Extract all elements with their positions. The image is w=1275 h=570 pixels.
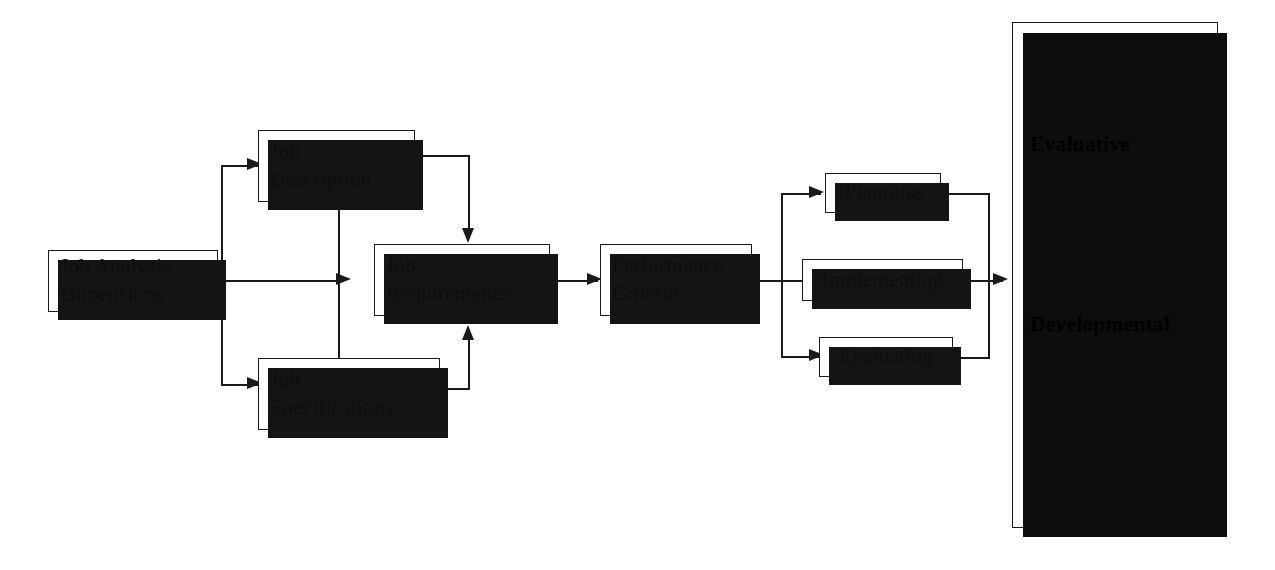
- connector-jad-to-jr-horizontal: [216, 280, 336, 282]
- arrowhead-js-to-jr: [462, 325, 474, 340]
- panel-list-evaluative: •Compensation •Legal •Penalties •Personn…: [1030, 157, 1211, 303]
- list-item-label: Goals: [1049, 397, 1099, 421]
- list-item-label: Motivation: [1049, 427, 1145, 451]
- diagram-canvas: Job Analysis Dimensions Job Description …: [0, 0, 1275, 570]
- node-job-analysis-dimensions[interactable]: Job Analysis Dimensions: [48, 250, 218, 312]
- bullet-icon: •: [1033, 424, 1039, 447]
- connector-jd-out-vertical: [468, 155, 470, 230]
- list-item: •Penalties: [1030, 215, 1211, 244]
- list-item-label: Compensation: [1049, 159, 1173, 183]
- node-job-specifications[interactable]: Job Specifications: [258, 358, 440, 430]
- bullet-icon: •: [1033, 156, 1039, 179]
- arrowhead-jd-to-jr: [462, 228, 474, 243]
- list-item: •Legal: [1030, 186, 1211, 215]
- node-implementing-label: Implementing: [803, 266, 962, 294]
- bullet-icon: •: [1033, 482, 1039, 505]
- node-planning-label: Planning: [826, 179, 940, 207]
- list-item-label: Personnel: [1049, 246, 1134, 270]
- node-job-analysis-dimensions-label: Job Analysis Dimensions: [60, 253, 171, 308]
- list-item: •Compensation: [1030, 157, 1211, 186]
- list-item: •Development: [1030, 337, 1211, 366]
- bullet-icon: •: [1033, 365, 1039, 388]
- panel-content: Purpose of Performance Evaluation Evalua…: [1030, 37, 1211, 512]
- bullet-icon: •: [1033, 243, 1039, 266]
- bullet-icon: •: [1033, 273, 1039, 296]
- bullet-icon: •: [1033, 336, 1039, 359]
- list-item-label: Planning: [1049, 456, 1125, 480]
- arrowhead-merge-to-panel: [993, 273, 1008, 285]
- node-job-description-label: Job Description: [270, 138, 371, 193]
- arrowhead-bus-to-planning: [809, 186, 824, 198]
- node-job-requirements[interactable]: Job Requirements: [374, 244, 550, 316]
- list-item-label: Development: [1049, 339, 1165, 363]
- list-item-label: Legal: [1049, 188, 1098, 212]
- node-performance-criteria[interactable]: Performance Criteria: [600, 244, 752, 316]
- node-job-description[interactable]: Job Description: [258, 130, 415, 202]
- bullet-icon: •: [1033, 214, 1039, 237]
- list-item: •Training: [1030, 483, 1211, 512]
- list-item-label: Promotion: [1049, 276, 1140, 300]
- list-item: •Planning: [1030, 454, 1211, 483]
- connector-merge-bus: [988, 193, 990, 358]
- arrowhead-jad-to-jr: [336, 273, 351, 285]
- bullet-icon: •: [1033, 453, 1039, 476]
- list-item-label: Training: [1049, 485, 1122, 509]
- list-item: •Personnel: [1030, 244, 1211, 273]
- list-item-label: Penalties: [1049, 217, 1127, 241]
- list-item: •Promotion: [1030, 274, 1211, 303]
- node-job-specifications-label: Job Specifications: [270, 366, 393, 421]
- list-item: •Motivation: [1030, 425, 1211, 454]
- node-implementing[interactable]: Implementing: [802, 259, 963, 301]
- connector-jd-out-horizontal: [418, 155, 470, 157]
- bullet-icon: •: [1033, 394, 1039, 417]
- panel-list-developmental: •Development •Feedback •Goals •Motivatio…: [1030, 337, 1211, 512]
- node-job-requirements-label: Job Requirements: [386, 252, 507, 307]
- list-item-label: Feedback: [1049, 368, 1131, 392]
- connector-rbus-down: [781, 280, 783, 357]
- panel-title: Purpose of Performance Evaluation: [1030, 37, 1211, 123]
- panel-section-heading-developmental: Developmental: [1030, 312, 1211, 337]
- list-item: •Feedback: [1030, 366, 1211, 395]
- connector-rbus-up: [781, 193, 783, 281]
- node-evaluating[interactable]: Evaluating: [819, 337, 953, 377]
- node-performance-criteria-label: Performance Criteria: [612, 252, 723, 307]
- bullet-icon: •: [1033, 185, 1039, 208]
- panel-section-heading-evaluative: Evaluative: [1030, 132, 1211, 157]
- node-planning[interactable]: Planning: [825, 173, 941, 213]
- node-evaluating-label: Evaluating: [820, 343, 952, 371]
- purpose-panel[interactable]: Purpose of Performance Evaluation Evalua…: [1012, 22, 1218, 528]
- connector-js-out-vertical: [468, 335, 470, 390]
- connector-jd-js-double-arrow: [338, 205, 340, 370]
- list-item: •Goals: [1030, 395, 1211, 424]
